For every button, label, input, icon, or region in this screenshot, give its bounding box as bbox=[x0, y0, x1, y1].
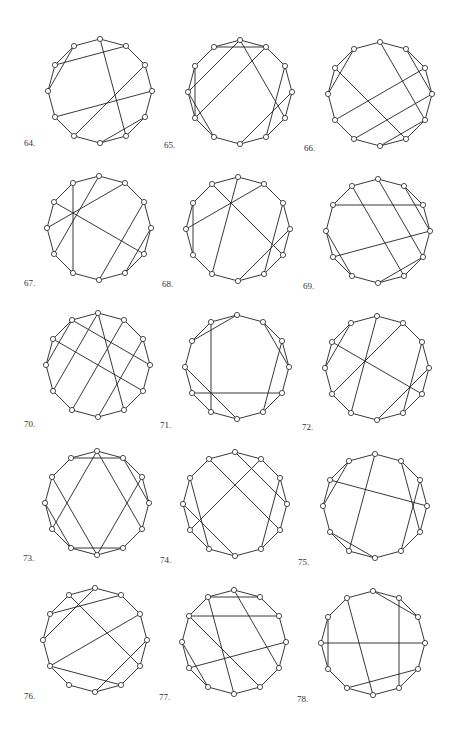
graph-65 bbox=[185, 37, 294, 146]
cycle-edge bbox=[189, 597, 208, 616]
graph-78 bbox=[318, 588, 427, 697]
graph-number-label: 71. bbox=[160, 420, 171, 430]
chord-edge bbox=[50, 614, 140, 666]
vertex bbox=[377, 39, 382, 44]
chord-edge bbox=[380, 120, 425, 146]
cycle-edge bbox=[352, 179, 378, 186]
vertex bbox=[375, 280, 380, 285]
vertex bbox=[260, 409, 265, 414]
vertex bbox=[71, 43, 76, 48]
graph-75 bbox=[320, 451, 429, 560]
cycle-edge bbox=[332, 394, 351, 413]
vertex bbox=[92, 585, 97, 590]
cycle-edge bbox=[124, 320, 143, 339]
chord-edge bbox=[48, 46, 74, 91]
vertex bbox=[261, 181, 266, 186]
cycle-edge bbox=[73, 273, 99, 280]
cycle-edge bbox=[420, 480, 427, 506]
vertex bbox=[120, 455, 125, 460]
vertex bbox=[276, 665, 281, 670]
vertex bbox=[192, 115, 197, 120]
vertex bbox=[148, 225, 153, 230]
vertex bbox=[43, 362, 48, 367]
cycle-edge bbox=[55, 117, 74, 136]
vertex bbox=[344, 595, 349, 600]
vertex bbox=[330, 202, 335, 207]
cycle-edge bbox=[186, 229, 193, 255]
chord-edge bbox=[349, 454, 375, 551]
vertex bbox=[186, 613, 191, 618]
vertex bbox=[287, 226, 292, 231]
cycle-edge bbox=[142, 477, 149, 503]
chord-edge bbox=[182, 642, 208, 687]
chord-edge bbox=[332, 323, 403, 394]
vertex bbox=[346, 548, 351, 553]
vertex bbox=[70, 180, 75, 185]
vertex bbox=[234, 416, 239, 421]
vertex bbox=[142, 114, 147, 119]
chord-edge bbox=[378, 257, 423, 283]
graph-number-label: 64. bbox=[24, 138, 35, 148]
cycle-edge bbox=[321, 643, 328, 669]
cycle-edge bbox=[352, 276, 378, 283]
cycle-edge bbox=[54, 183, 73, 202]
vertex bbox=[349, 273, 354, 278]
chord-edge bbox=[325, 323, 351, 368]
cycle-edge bbox=[143, 365, 150, 391]
graph-70 bbox=[43, 310, 152, 419]
cycle-edge bbox=[423, 205, 430, 231]
vertex bbox=[205, 684, 210, 689]
cycle-edge bbox=[53, 391, 72, 410]
cycle-edge bbox=[45, 503, 52, 529]
chord-edge bbox=[335, 68, 425, 120]
graph-77 bbox=[179, 587, 288, 696]
graph-number-label: 68. bbox=[162, 279, 173, 289]
chord-edge bbox=[234, 590, 279, 668]
graph-71 bbox=[182, 312, 291, 421]
vertex bbox=[419, 339, 424, 344]
cycle-edge bbox=[380, 139, 406, 146]
cycle-edge bbox=[190, 459, 209, 478]
chord-edge bbox=[45, 503, 71, 548]
vertex bbox=[396, 685, 401, 690]
cycle-edge bbox=[328, 598, 347, 617]
vertex bbox=[142, 62, 147, 67]
vertex bbox=[140, 336, 145, 341]
vertex bbox=[377, 143, 382, 148]
chord-edge bbox=[195, 47, 266, 118]
vertex bbox=[42, 500, 47, 505]
cycle-edge bbox=[98, 313, 124, 320]
vertex bbox=[121, 407, 126, 412]
chord-edge bbox=[212, 177, 238, 274]
chord-edge bbox=[192, 315, 237, 341]
vertex bbox=[372, 555, 377, 560]
vertex bbox=[120, 545, 125, 550]
chord-edge bbox=[188, 92, 214, 137]
cycle-edge bbox=[234, 687, 260, 694]
cycle-edge bbox=[46, 339, 53, 365]
vertex bbox=[284, 501, 289, 506]
graph-number-label: 76. bbox=[24, 691, 35, 701]
graph-69 bbox=[323, 176, 432, 285]
vertex bbox=[140, 388, 145, 393]
vertex bbox=[52, 114, 57, 119]
vertex bbox=[415, 614, 420, 619]
graph-number-label: 74. bbox=[160, 555, 171, 565]
chord-edge bbox=[52, 451, 97, 529]
vertex bbox=[185, 89, 190, 94]
graph-number-label: 70. bbox=[24, 419, 35, 429]
vertex bbox=[137, 663, 142, 668]
cycle-edge bbox=[328, 68, 335, 94]
vertex bbox=[349, 183, 354, 188]
vertex bbox=[325, 91, 330, 96]
vertex bbox=[139, 526, 144, 531]
chord-edge bbox=[186, 184, 264, 229]
vertex bbox=[282, 63, 287, 68]
vertex bbox=[257, 594, 262, 599]
vertex bbox=[374, 313, 379, 318]
cycle-edge bbox=[282, 341, 289, 367]
vertex bbox=[137, 611, 142, 616]
vertex bbox=[263, 44, 268, 49]
cycle-edge bbox=[354, 42, 380, 49]
vertex bbox=[280, 252, 285, 257]
